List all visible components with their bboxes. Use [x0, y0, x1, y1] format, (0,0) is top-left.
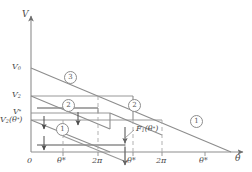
plot-canvas	[0, 0, 252, 172]
axes	[31, 16, 243, 152]
series-2-lines	[31, 96, 162, 135]
x-tick-marks	[63, 152, 205, 156]
chart-figure: V θ V0 V2 V* V2(θ*) 0 θ* 2π θ* 2π θ* F1(…	[0, 0, 252, 172]
series-3-line	[31, 68, 231, 152]
horizontal-connectors	[31, 96, 162, 145]
